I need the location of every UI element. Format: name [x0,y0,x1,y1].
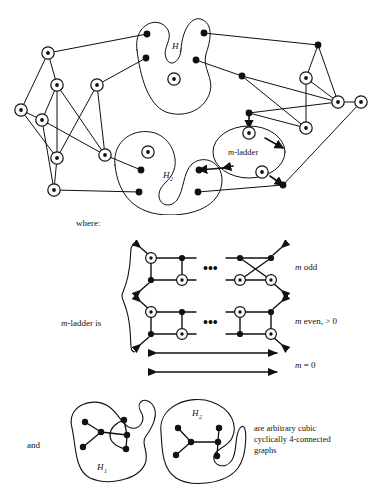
caption-line-2: cyclically 4-connected [254,434,331,445]
and-label: and [27,440,40,450]
circled-node-group [15,47,367,196]
h2-blob-sub: 2 [170,176,173,182]
h2-example-label: H [191,408,199,418]
ellipsis-even: ••• [203,315,218,330]
case-label-m-even: m even, > 0 [295,316,337,326]
m-ladder-is-label: m-ladder is [61,318,101,328]
h2-blob-label: H [162,170,170,180]
main-graph-svg: H 1 H 2 m-ladder [0,0,371,215]
h1-example-outline [71,400,155,481]
h1-blob-label: H [171,41,179,51]
bottom-caption: are arbitrary cubic cyclically 4-connect… [254,423,331,456]
left-brace [122,245,135,352]
caption-line-3: graphs [254,445,331,456]
case-label-m-odd: m odd [295,262,317,272]
h1-example-label: H [96,462,104,472]
ellipsis-odd: ••• [203,261,218,276]
h1-example-sub: 1 [104,468,107,474]
where-label: where: [76,218,101,228]
caption-line-1: are arbitrary cubic [254,423,331,434]
figure-root: H 1 H 2 m-ladder where: [0,0,371,485]
h1-blob-sub: 1 [179,47,182,53]
case-label-m-zero: m = 0 [295,360,316,370]
m-ladder-bubble-label: m-ladder [228,147,258,157]
h2-example-sub: 2 [199,414,202,420]
